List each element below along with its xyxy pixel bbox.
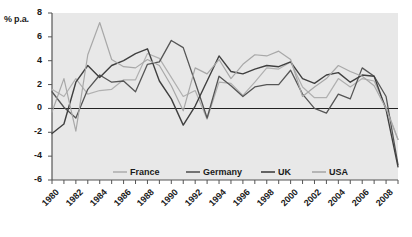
plot-background: [52, 13, 398, 180]
x-axis-ticks: [52, 180, 398, 184]
chart-figure: % p.a. -6-4-202468 198019821984198619881…: [0, 0, 412, 237]
y-tick-label: -6: [24, 174, 42, 184]
y-tick-label: -2: [24, 126, 42, 136]
y-tick-label: -4: [24, 150, 42, 160]
y-tick-label: 2: [24, 79, 42, 89]
legend-label-uk: UK: [278, 167, 291, 177]
y-tick-label: 8: [24, 7, 42, 17]
legend-label-germany: Germany: [203, 167, 242, 177]
y-tick-label: 0: [24, 102, 42, 112]
y-tick-label: 6: [24, 31, 42, 41]
y-tick-label: 4: [24, 55, 42, 65]
legend-label-france: France: [130, 167, 160, 177]
legend-label-usa: USA: [329, 167, 348, 177]
